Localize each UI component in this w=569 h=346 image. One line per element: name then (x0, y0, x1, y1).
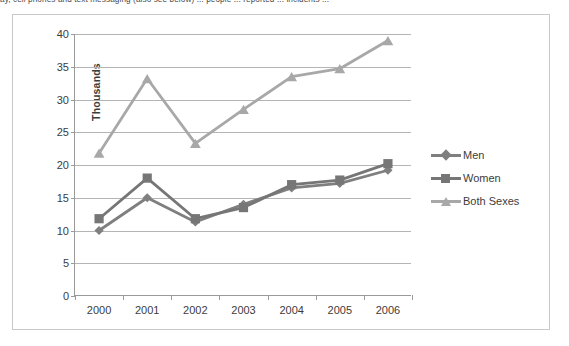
x-axis-tick (412, 295, 413, 300)
x-axis-tick (123, 295, 124, 300)
x-axis-tick (171, 295, 172, 300)
x-axis-tick-label: 2003 (231, 304, 255, 316)
data-point-marker (383, 159, 392, 168)
y-axis-tick-label: 10 (57, 225, 69, 237)
y-axis-tick-label: 30 (57, 94, 69, 106)
series-plot (75, 34, 412, 296)
legend-label: Men (463, 149, 484, 161)
line-marker-square-icon (431, 171, 461, 185)
y-axis-tick (71, 67, 75, 68)
data-point-marker (335, 175, 344, 184)
x-axis-tick-label: 2006 (376, 304, 400, 316)
line-marker-diamond-icon (431, 148, 461, 162)
y-axis-tick (71, 132, 75, 133)
data-point-marker (191, 214, 200, 223)
legend-item-both-sexes[interactable]: Both Sexes (431, 191, 541, 211)
data-point-marker (143, 174, 152, 183)
data-point-marker (287, 180, 296, 189)
series-both-sexes (94, 36, 394, 158)
x-axis-tick (268, 295, 269, 300)
legend-item-men[interactable]: Men (431, 145, 541, 165)
y-axis-tick-label: 20 (57, 159, 69, 171)
y-axis-tick (71, 263, 75, 264)
legend-label: Women (463, 172, 501, 184)
x-axis-tick-label: 2000 (87, 304, 111, 316)
legend-label: Both Sexes (463, 195, 519, 207)
data-point-marker (94, 214, 103, 223)
y-axis-tick-label: 0 (63, 290, 69, 302)
y-axis-tick-label: 40 (57, 28, 69, 40)
y-axis-tick (71, 34, 75, 35)
x-axis-tick-label: 2002 (183, 304, 207, 316)
x-axis-tick-label: 2004 (279, 304, 303, 316)
legend-marker (440, 149, 451, 160)
y-axis-tick-label: 35 (57, 61, 69, 73)
x-axis-tick-label: 2001 (135, 304, 159, 316)
series-line (99, 41, 388, 154)
clipped-document-text: ay, cell phones and text messaging (also… (0, 0, 569, 6)
chart-frame: Thousands 051015202530354020002001200220… (12, 14, 550, 330)
y-axis-tick-label: 5 (63, 257, 69, 269)
x-axis-tick (364, 295, 365, 300)
y-axis-tick-label: 15 (57, 192, 69, 204)
y-axis-tick (71, 165, 75, 166)
chart-legend: Men Women Both Sexes (431, 145, 541, 214)
data-point-marker (94, 149, 105, 158)
data-point-marker (239, 203, 248, 212)
data-point-marker (142, 74, 153, 83)
y-axis-tick-label: 25 (57, 126, 69, 138)
y-axis-tick (71, 198, 75, 199)
y-axis-tick (71, 231, 75, 232)
data-point-marker (383, 36, 394, 45)
legend-marker (441, 174, 450, 183)
x-axis-tick (316, 295, 317, 300)
x-axis-tick-label: 2005 (328, 304, 352, 316)
legend-marker (441, 197, 451, 206)
line-marker-triangle-icon (431, 194, 461, 208)
x-axis-tick (219, 295, 220, 300)
x-axis-tick (75, 295, 76, 300)
plot-area: Thousands 051015202530354020002001200220… (74, 34, 411, 296)
y-axis-tick (71, 100, 75, 101)
legend-item-women[interactable]: Women (431, 168, 541, 188)
series-women (94, 159, 392, 223)
